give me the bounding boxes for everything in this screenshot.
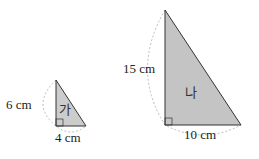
similar-triangles-figure: 가 6 cm 4 cm 나 15 cm 10 cm: [0, 0, 259, 159]
triangle-na-base-label: 10 cm: [184, 127, 216, 142]
triangle-na-shape: [165, 10, 241, 125]
triangle-na: 나 15 cm 10 cm: [123, 10, 241, 142]
triangle-ga-name: 가: [59, 102, 71, 117]
triangle-ga-height-label: 6 cm: [6, 97, 32, 112]
triangle-ga: 가 6 cm 4 cm: [6, 80, 86, 145]
triangle-ga-base-label: 4 cm: [55, 130, 81, 145]
triangle-na-name: 나: [185, 85, 197, 100]
triangle-na-height-label: 15 cm: [123, 61, 155, 76]
